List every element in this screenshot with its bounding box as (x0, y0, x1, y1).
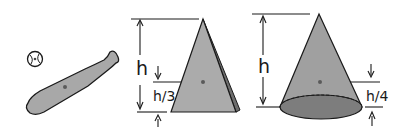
center-of-mass-figure: h h/3 h h/4 (0, 0, 408, 138)
baseball-icon (28, 52, 43, 67)
cone-center-of-mass-dot (318, 80, 322, 84)
triangle-plate-shape (171, 19, 240, 112)
bat-center-of-mass-dot (63, 85, 67, 89)
triangle-height-label: h (136, 57, 148, 79)
cone-height-label: h (258, 55, 270, 77)
triangle-offset-label: h/3 (153, 88, 176, 104)
triangle-center-of-mass-dot (201, 80, 205, 84)
cone-shape (280, 14, 362, 119)
cone-offset-label: h/4 (366, 88, 389, 104)
figure-canvas (0, 0, 408, 138)
